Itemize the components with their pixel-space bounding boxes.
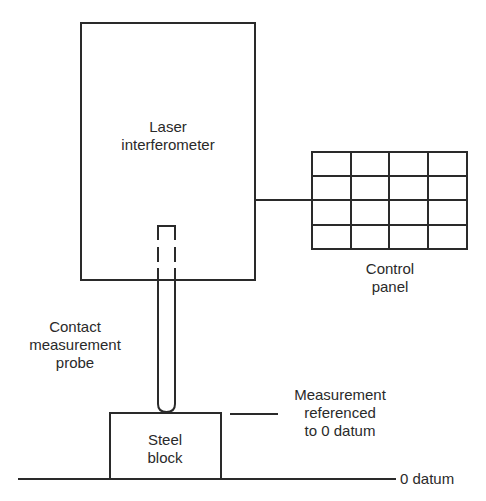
datum-label: 0 datum (400, 470, 454, 488)
control-panel-label: Control panel (345, 260, 435, 296)
probe-label: Contact measurement probe (20, 318, 130, 372)
control-panel-grid (312, 152, 467, 249)
steel-block-label: Steel block (125, 431, 205, 467)
diagram-canvas (0, 0, 486, 501)
laser-label: Laser interferometer (118, 118, 218, 154)
probe-hidden-part (158, 226, 175, 280)
contact-probe (158, 280, 175, 412)
reference-label: Measurement referenced to 0 datum (280, 386, 400, 440)
